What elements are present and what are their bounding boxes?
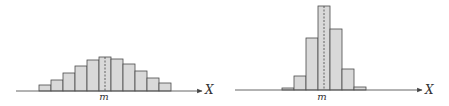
histogram-bar (342, 69, 354, 90)
histograms-figure: mX mX (0, 0, 449, 106)
histogram-bar (159, 83, 171, 91)
x-axis-label: X (424, 83, 434, 97)
histogram-bar (330, 29, 342, 90)
histogram-bar (39, 85, 51, 91)
histogram-bar (294, 76, 306, 90)
histogram-bar (111, 59, 123, 91)
histogram-bar (87, 60, 99, 91)
histogram-bar (123, 64, 135, 91)
histogram-bar (306, 38, 318, 90)
histogram-bar (63, 73, 75, 91)
x-axis-label: X (204, 83, 214, 97)
mean-label: m (99, 91, 108, 102)
histogram-bar (147, 78, 159, 91)
wide-histogram: mX (16, 57, 214, 102)
histogram-bar (135, 71, 147, 91)
histogram-bar (75, 66, 87, 91)
mean-label: m (317, 91, 326, 102)
narrow-histogram: mX (235, 6, 434, 102)
histogram-bar (51, 80, 63, 91)
